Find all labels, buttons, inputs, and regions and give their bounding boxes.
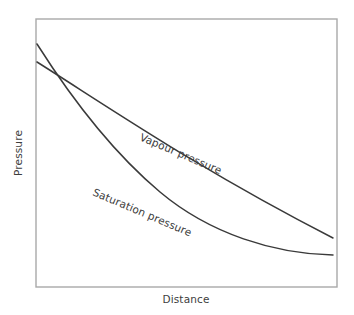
vapour-pressure-label: Vapour pressure — [138, 131, 224, 176]
chart-svg: Vapour pressure Saturation pressure Dist… — [0, 0, 354, 315]
saturation-pressure-label: Saturation pressure — [91, 186, 194, 239]
x-axis-label: Distance — [162, 293, 209, 305]
pressure-distance-chart: Vapour pressure Saturation pressure Dist… — [0, 0, 354, 315]
y-axis-label: Pressure — [12, 130, 24, 176]
